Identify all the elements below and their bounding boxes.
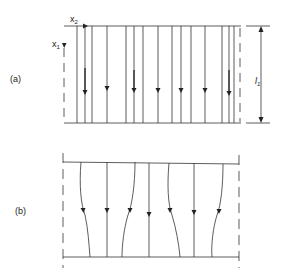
panel-a <box>64 26 241 123</box>
panel-b <box>63 153 239 268</box>
x1-axis-label: x1 <box>52 39 61 50</box>
top-boundary-b <box>63 162 239 164</box>
dimension-l1 <box>246 26 270 123</box>
flow-lines <box>77 26 234 123</box>
arrowheads-b <box>81 208 222 217</box>
panel-b-label: (b) <box>15 206 26 216</box>
l1-label: l1 <box>255 76 260 87</box>
panel-a-label: (a) <box>10 74 21 84</box>
x2-axis-label: x2 <box>70 14 79 25</box>
arrowheads-a <box>62 24 232 97</box>
curved-flow-lines <box>80 162 223 257</box>
flow-diagram: (a) x1 x2 l1 (b) <box>0 0 283 277</box>
